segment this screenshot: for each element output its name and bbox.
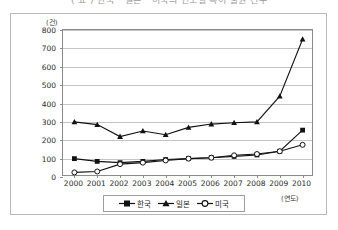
x-axis-tick-label: 2005 [178,179,197,188]
chart-legend: 한국 일본 미국 [103,195,245,212]
legend-item-japan: 일본 [158,198,190,209]
data-point-미국 [72,170,77,175]
data-point-일본 [300,36,306,41]
legend-label-usa: 미국 [215,198,229,209]
legend-marker-usa [197,199,213,208]
chart-title-text: ( 표 ) 한국 · 일본 · 미국의 연도별 특허 출원 건수 [71,0,267,6]
x-axis-tick-label: 2010 [292,179,311,188]
x-axis-tick-label: 2007 [224,179,243,188]
x-axis-tick-label: 2009 [269,179,288,188]
x-axis-unit-label: (연도) [281,193,298,203]
data-point-미국 [118,162,123,167]
data-point-미국 [300,142,305,147]
y-axis-tick-label: 700 [32,44,56,53]
series-layer [63,30,314,177]
y-axis-tick-label: 0 [32,173,56,182]
data-point-미국 [254,152,259,157]
y-axis-tick-label: 600 [32,62,56,71]
x-axis-tick-label: 2002 [109,179,128,188]
y-axis-tick-label: 800 [32,26,56,35]
data-point-일본 [72,119,78,124]
x-axis-labels: 2000200120022003200420052006200720082009… [62,179,313,191]
data-point-일본 [140,128,146,133]
y-axis-tick [60,177,63,178]
data-point-일본 [277,93,283,98]
x-axis-tick-label: 2000 [64,179,83,188]
data-point-미국 [209,155,214,160]
x-axis-tick-label: 2001 [87,179,106,188]
data-point-한국 [95,159,100,164]
data-point-미국 [163,158,168,163]
x-axis-tick-label: 2003 [132,179,151,188]
y-axis-tick-label: 100 [32,154,56,163]
y-axis-tick-label: 300 [32,117,56,126]
data-point-한국 [300,128,305,133]
x-axis-tick-label: 2008 [246,179,265,188]
x-axis-tick-label: 2004 [155,179,174,188]
data-point-미국 [140,160,145,165]
y-axis-tick-label: 200 [32,136,56,145]
data-point-미국 [277,149,282,154]
data-point-미국 [95,169,100,174]
x-axis-tick-label: 2006 [201,179,220,188]
legend-marker-japan [158,199,174,208]
y-axis-tick-label: 500 [32,81,56,90]
legend-item-usa: 미국 [197,198,229,209]
legend-label-korea: 한국 [137,198,151,209]
data-point-미국 [232,153,237,158]
legend-marker-korea [119,199,135,208]
series-line-일본 [74,39,302,136]
y-axis-tick-label: 400 [32,99,56,108]
legend-label-japan: 일본 [176,198,190,209]
plot-area: 8007006005004003002001000 [62,29,313,176]
data-point-미국 [186,156,191,161]
legend-item-korea: 한국 [119,198,151,209]
chart-title-clipped: ( 표 ) 한국 · 일본 · 미국의 연도별 특허 출원 건수 [0,0,338,11]
data-point-한국 [72,156,77,161]
